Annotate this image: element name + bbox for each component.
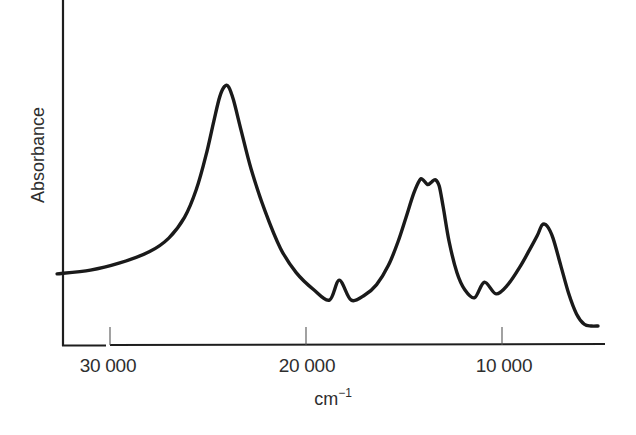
- absorbance-curve: [57, 85, 598, 326]
- x-axis-unit-exponent: −1: [338, 386, 352, 400]
- x-axis-unit: cm: [314, 389, 338, 409]
- x-tick-label-30000: 30 000: [80, 355, 136, 377]
- x-axis-line: [110, 344, 605, 345]
- x-tick-label-20000: 20 000: [279, 355, 335, 377]
- x-axis-title: cm−1: [314, 386, 352, 410]
- x-axis-ticks: [110, 327, 502, 345]
- y-axis-title: Absorbance: [28, 107, 49, 203]
- x-tick-label-10000: 10 000: [476, 355, 532, 377]
